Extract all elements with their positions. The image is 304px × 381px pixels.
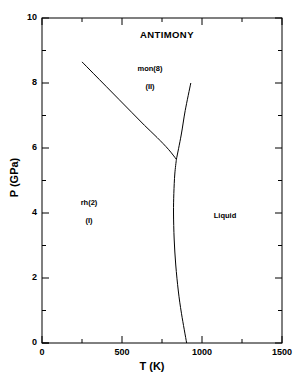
- ytick-label-0: 0: [0, 338, 37, 347]
- ytick-label-10: 10: [0, 13, 37, 22]
- plot-title: ANTIMONY: [140, 30, 194, 40]
- xtick-label-500: 500: [102, 348, 142, 357]
- plot-canvas: [0, 0, 304, 381]
- phase-label-rh-roman: (I): [65, 217, 113, 225]
- phase-label-rh: rh(2): [65, 199, 113, 207]
- ytick-label-2: 2: [0, 273, 37, 282]
- xtick-label-0: 0: [22, 348, 62, 357]
- phase-label-mon-roman: (II): [126, 83, 174, 91]
- x-axis-title: T (K): [0, 361, 304, 372]
- xtick-label-1000: 1000: [182, 348, 222, 357]
- phase-label-mon: mon(8): [126, 65, 174, 73]
- phase-diagram-figure: ANTIMONY mon(8) (II) rh(2) (I) Liquid 0 …: [0, 0, 304, 381]
- xtick-label-1500: 1500: [262, 348, 302, 357]
- ytick-label-8: 8: [0, 78, 37, 87]
- y-axis-title: P (GPa): [9, 138, 20, 218]
- phase-label-liquid: Liquid: [203, 212, 247, 220]
